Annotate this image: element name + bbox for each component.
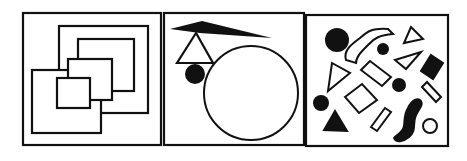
large-circle-icon (204, 46, 298, 140)
outline-rectangle-icon (422, 82, 441, 102)
outline-diamond-icon (345, 84, 377, 113)
black-dot-icon (185, 64, 205, 84)
black-circle-icon (325, 28, 349, 52)
outline-rectangle-icon (371, 108, 391, 131)
panel-3-shapes (313, 27, 443, 141)
black-dot-icon (313, 95, 329, 111)
outline-triangle-icon (328, 63, 350, 91)
black-dot-icon (377, 43, 389, 55)
black-squiggle-icon (394, 99, 422, 141)
panel-2-shapes (170, 21, 298, 140)
outline-rectangle-icon (361, 61, 391, 86)
black-wedge-icon (170, 21, 272, 38)
outline-triangle-icon (404, 27, 423, 43)
three-panel-figure (0, 0, 467, 161)
outline-triangle-icon (395, 52, 421, 69)
black-triangle-icon (324, 111, 347, 131)
small-square (57, 78, 90, 108)
outline-circle-icon (423, 119, 437, 133)
outline-triangle-icon (177, 33, 213, 63)
panel-1-squares (32, 26, 148, 133)
black-dot-icon (392, 78, 406, 92)
black-diamond-icon (421, 55, 443, 79)
